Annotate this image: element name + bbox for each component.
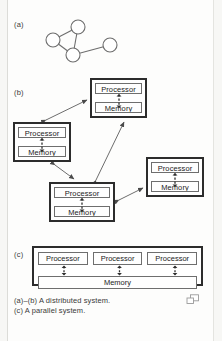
parallel-processor-1: Processor xyxy=(38,252,88,265)
node-right-processor: Processor xyxy=(151,162,199,173)
node-center-internal-link xyxy=(54,198,110,206)
panel-label-c: (c) xyxy=(14,250,23,259)
node-right-internal-link xyxy=(151,173,199,181)
parallel-processor-3: Processor xyxy=(147,252,197,265)
panel-a-graph xyxy=(36,12,131,70)
parallel-processor-2: Processor xyxy=(93,252,143,265)
node-left-internal-link xyxy=(18,138,66,146)
figure-root: (a) (b) Processor xyxy=(0,0,222,341)
panel-label-a: (a) xyxy=(14,20,24,29)
node-top-processor: Processor xyxy=(95,83,142,94)
caption-line-1: (a)–(b) A distributed system. xyxy=(14,296,110,305)
node-center-processor: Processor xyxy=(54,187,110,198)
graph-node-n2 xyxy=(46,33,60,47)
overlapping-rectangles-icon[interactable] xyxy=(186,294,200,305)
caption-line-2: (c) A parallel system. xyxy=(14,306,85,315)
graph-node-n1 xyxy=(71,20,85,34)
parallel-system-box[interactable]: Processor Processor Processor xyxy=(32,246,203,286)
node-center[interactable]: Processor Memory xyxy=(49,182,115,222)
parallel-processor-row: Processor Processor Processor xyxy=(38,252,197,265)
node-top-internal-link xyxy=(95,94,142,102)
node-left[interactable]: Processor Memory xyxy=(13,122,71,162)
graph-node-n3 xyxy=(66,48,80,62)
node-top[interactable]: Processor Memory xyxy=(90,78,147,118)
node-right[interactable]: Processor Memory xyxy=(146,157,204,197)
node-left-processor: Processor xyxy=(18,127,66,138)
panel-label-b: (b) xyxy=(14,88,24,97)
parallel-shared-memory: Memory xyxy=(38,276,197,289)
graph-nodes xyxy=(46,20,117,62)
graph-node-n4 xyxy=(103,38,117,52)
parallel-bus-links xyxy=(38,265,197,276)
